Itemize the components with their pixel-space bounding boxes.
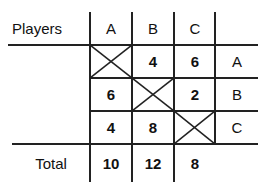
row-label-a: A: [216, 46, 258, 77]
column-header-a: A: [91, 12, 131, 44]
header-players-label: Players: [8, 12, 94, 44]
cross-mark-icon: [174, 111, 215, 144]
cell-b-c: 2: [175, 79, 215, 110]
cross-mark-icon: [132, 78, 174, 111]
total-b: 12: [133, 145, 173, 182]
cell-c-a: 4: [91, 112, 131, 143]
total-label: Total: [12, 145, 90, 182]
column-header-c: C: [175, 12, 215, 44]
row-label-c: C: [216, 112, 258, 143]
cross-mark-icon: [90, 45, 132, 78]
column-header-b: B: [133, 12, 173, 44]
total-a: 10: [91, 145, 131, 182]
cell-b-a: 6: [91, 79, 131, 110]
cell-a-b: 4: [133, 46, 173, 77]
total-c: 8: [175, 145, 215, 182]
row-label-b: B: [216, 79, 258, 110]
cell-c-b: 8: [133, 112, 173, 143]
cell-a-c: 6: [175, 46, 215, 77]
